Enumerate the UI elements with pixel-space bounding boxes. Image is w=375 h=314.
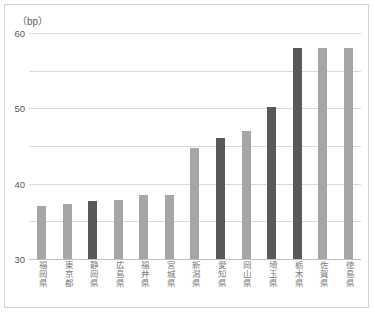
chart-frame: （bp） 0102030405060 福岡県東京都静岡県広島県福井県宮城県新潟県… xyxy=(4,4,369,308)
x-axis-labels: 福岡県東京都静岡県広島県福井県宮城県新潟県愛知県岡山県埼玉県栃木県佐賀県徳島県 xyxy=(29,261,361,305)
bar[interactable] xyxy=(267,107,276,259)
x-label-slot: 福岡県 xyxy=(29,261,55,305)
bar-slot xyxy=(284,33,310,259)
gridline-0: 0 xyxy=(29,259,361,260)
bar-slot xyxy=(106,33,132,259)
x-tick-label: 愛知県 xyxy=(216,261,225,305)
y-tick-label: 40 xyxy=(14,178,25,189)
bar[interactable] xyxy=(37,206,46,259)
x-label-slot: 埼玉県 xyxy=(259,261,285,305)
y-tick-label: 30 xyxy=(14,254,25,265)
x-tick-label: 埼玉県 xyxy=(267,261,276,305)
y-tick-label: 60 xyxy=(14,28,25,39)
bar-slot xyxy=(259,33,285,259)
bar-slot xyxy=(55,33,81,259)
bar-slot xyxy=(131,33,157,259)
bar[interactable] xyxy=(242,131,251,259)
x-label-slot: 栃木県 xyxy=(284,261,310,305)
x-label-slot: 佐賀県 xyxy=(310,261,336,305)
x-label-slot: 広島県 xyxy=(106,261,132,305)
bar[interactable] xyxy=(63,204,72,259)
x-tick-label: 静岡県 xyxy=(88,261,97,305)
x-label-slot: 徳島県 xyxy=(335,261,361,305)
x-label-slot: 静岡県 xyxy=(80,261,106,305)
x-tick-label: 福岡県 xyxy=(37,261,46,305)
bar-slot xyxy=(157,33,183,259)
bar[interactable] xyxy=(293,48,302,259)
bar[interactable] xyxy=(190,148,199,259)
bar[interactable] xyxy=(165,195,174,259)
y-tick-label: 50 xyxy=(14,103,25,114)
x-label-slot: 宮城県 xyxy=(157,261,183,305)
x-label-slot: 岡山県 xyxy=(233,261,259,305)
chart-plot-wrapper: （bp） 0102030405060 福岡県東京都静岡県広島県福井県宮城県新潟県… xyxy=(5,5,368,307)
bar-slot xyxy=(208,33,234,259)
bar-slot xyxy=(233,33,259,259)
x-tick-label: 徳島県 xyxy=(344,261,353,305)
y-axis-unit-label: （bp） xyxy=(17,13,48,28)
x-label-slot: 福井県 xyxy=(131,261,157,305)
bar[interactable] xyxy=(88,201,97,259)
bar-slot xyxy=(182,33,208,259)
bar[interactable] xyxy=(216,138,225,259)
x-label-slot: 愛知県 xyxy=(208,261,234,305)
bar[interactable] xyxy=(114,200,123,259)
x-tick-label: 広島県 xyxy=(114,261,123,305)
bar-series xyxy=(29,33,361,259)
x-tick-label: 岡山県 xyxy=(242,261,251,305)
x-label-slot: 新潟県 xyxy=(182,261,208,305)
bar[interactable] xyxy=(344,48,353,259)
x-tick-label: 新潟県 xyxy=(190,261,199,305)
bar[interactable] xyxy=(318,48,327,259)
bar-slot xyxy=(310,33,336,259)
bar[interactable] xyxy=(139,195,148,259)
x-label-slot: 東京都 xyxy=(55,261,81,305)
x-tick-label: 栃木県 xyxy=(293,261,302,305)
bar-slot xyxy=(335,33,361,259)
x-tick-label: 東京都 xyxy=(63,261,72,305)
bar-slot xyxy=(80,33,106,259)
x-tick-label: 宮城県 xyxy=(165,261,174,305)
x-tick-label: 福井県 xyxy=(139,261,148,305)
bar-slot xyxy=(29,33,55,259)
plot-area: 0102030405060 xyxy=(29,33,361,259)
x-tick-label: 佐賀県 xyxy=(318,261,327,305)
